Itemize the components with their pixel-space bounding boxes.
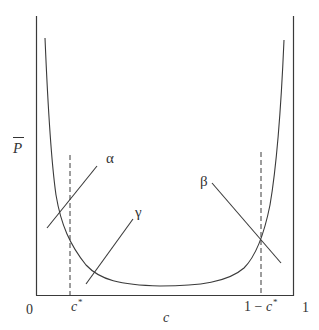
x-tick-one-minus-prefix: 1 − bbox=[244, 299, 266, 314]
x-tick-one-minus-c-star: 1 − c * bbox=[244, 297, 278, 314]
y-axis-label-text: P bbox=[12, 140, 22, 156]
x-tick-c-star: c * bbox=[71, 297, 83, 314]
x-tick-one-minus-base: c bbox=[266, 299, 273, 314]
beta-line bbox=[212, 183, 281, 263]
gamma-line bbox=[86, 219, 133, 284]
alpha-line bbox=[47, 166, 97, 228]
x-tick-one-minus-sup: * bbox=[273, 297, 278, 307]
x-tick-one: 1 bbox=[302, 300, 309, 315]
u-shaped-curve-diagram: P α β γ 0 c * 1 − c * 1 c bbox=[0, 0, 319, 330]
gamma-label: γ bbox=[134, 204, 142, 220]
axes bbox=[36, 16, 294, 296]
x-axis-label: c bbox=[163, 310, 170, 325]
y-axis-label: P bbox=[12, 138, 24, 157]
x-tick-c-star-base: c bbox=[71, 299, 78, 314]
x-tick-origin: 0 bbox=[26, 302, 33, 317]
p-bar-curve bbox=[45, 38, 284, 286]
x-tick-c-star-sup: * bbox=[78, 297, 83, 307]
alpha-label: α bbox=[106, 150, 114, 166]
beta-label: β bbox=[200, 173, 208, 189]
